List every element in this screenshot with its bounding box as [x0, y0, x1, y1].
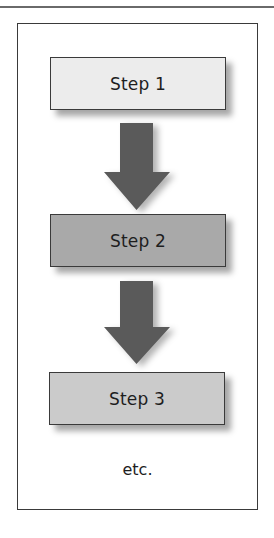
step-1-box: Step 1	[50, 57, 226, 110]
step-2-label: Step 2	[110, 231, 166, 251]
down-arrow-icon	[103, 281, 171, 365]
step-3-box: Step 3	[49, 372, 225, 425]
top-rule	[0, 6, 274, 8]
step-1-label: Step 1	[110, 74, 166, 94]
continuation-label: etc.	[17, 460, 258, 479]
step-2-box: Step 2	[50, 214, 226, 267]
step-3-label: Step 3	[109, 389, 165, 409]
down-arrow-icon	[103, 123, 171, 211]
